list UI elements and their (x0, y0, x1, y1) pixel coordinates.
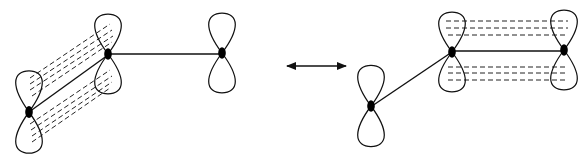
pi-overlap-lower-right (448, 67, 568, 80)
p-orbital-a (16, 71, 43, 153)
left-structure (16, 13, 236, 153)
p-orbital-c (209, 13, 236, 93)
right-structure (358, 10, 578, 147)
p-orbital-d (358, 65, 385, 146)
p-orbital-f (551, 10, 578, 90)
resonance-diagram (0, 0, 587, 156)
